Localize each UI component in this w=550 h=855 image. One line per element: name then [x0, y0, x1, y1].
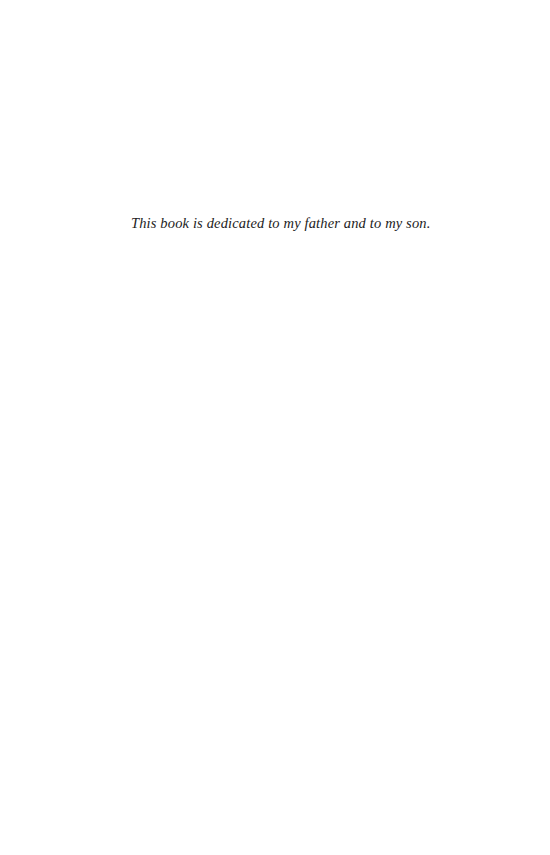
book-page: This book is dedicated to my father and … [0, 0, 550, 855]
dedication-text: This book is dedicated to my father and … [131, 213, 431, 233]
